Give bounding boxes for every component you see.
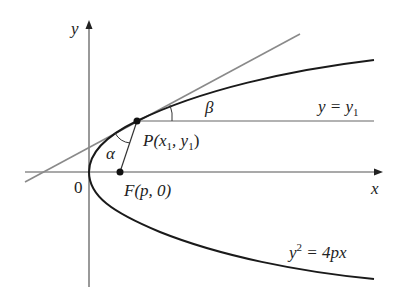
y-axis-label: y [69, 19, 79, 38]
horizontal-line-label: y = y1 [316, 97, 359, 118]
focus-label: F(p, 0) [123, 181, 172, 200]
point-p-marker [134, 118, 141, 125]
y-axis-arrow-icon [86, 20, 93, 29]
focus-marker [117, 169, 124, 176]
beta-angle-arc [170, 105, 172, 121]
x-axis-label: x [370, 179, 379, 198]
tangent-line [25, 34, 300, 182]
parabola-equation-label: y2 = 4px [287, 241, 347, 262]
point-p-label: P(x1, y1) [142, 131, 199, 152]
origin-label: 0 [74, 178, 83, 197]
alpha-label: α [106, 144, 116, 163]
x-axis-arrow-icon [374, 169, 383, 176]
parabola-reflection-diagram: y x 0 α β P(x1, y1) F(p, 0) y = y1 y2 = … [0, 0, 398, 302]
alpha-angle-arc [115, 133, 130, 143]
beta-label: β [204, 98, 214, 117]
